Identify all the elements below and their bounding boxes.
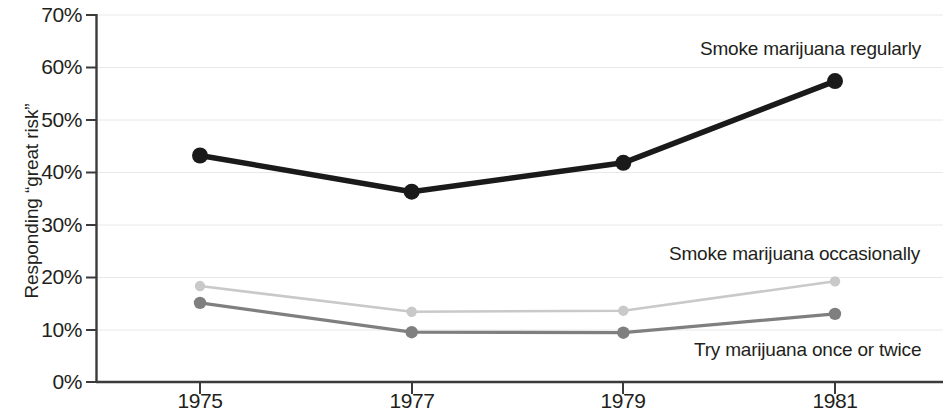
series-line [200,81,835,192]
data-point [615,155,631,171]
data-point [406,307,416,317]
plot-area [0,0,943,416]
data-point [192,148,208,164]
series-smoke-marijuana-occasionally [195,276,840,317]
axis-ticks [86,15,835,394]
data-point [405,326,417,338]
data-point [829,308,841,320]
data-point [404,184,420,200]
series-smoke-marijuana-regularly [192,73,843,200]
data-point [195,281,205,291]
data-point [827,73,843,89]
data-point [194,297,206,309]
series-try-marijuana-once-or-twice [194,297,841,339]
axis-lines [96,14,943,382]
series-line [200,303,835,333]
data-point [618,305,628,315]
series-line [200,281,835,311]
data-point [830,276,840,286]
line-chart: Responding “great risk” 70% 60% 50% 40% … [0,0,943,416]
data-point [617,327,629,339]
